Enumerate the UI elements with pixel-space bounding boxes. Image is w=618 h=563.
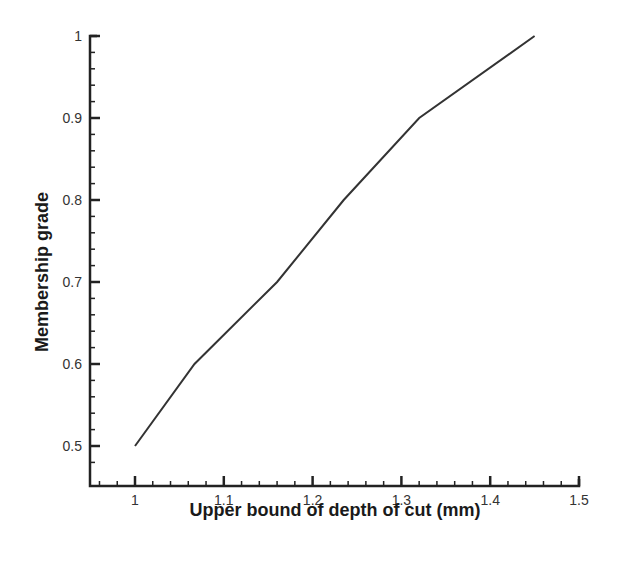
x-axis-title: Upper bound of depth of cut (mm) [190,500,481,520]
y-tick-labels: 0.50.60.70.80.91 [63,28,83,454]
y-tick-label: 0.9 [63,110,83,126]
y-ticks [90,36,100,462]
y-tick-label: 0.6 [63,356,83,372]
chart: 0.50.60.70.80.91 11.11.21.31.41.5 Upper … [0,0,618,563]
y-tick-label: 1 [74,28,82,44]
x-tick-label: 1.4 [480,492,500,508]
y-tick-label: 0.7 [63,274,83,290]
x-tick-label: 1 [131,492,139,508]
y-tick-label: 0.5 [63,438,83,454]
axis-lines [90,36,579,486]
x-ticks [99,476,579,486]
axes [90,36,579,486]
membership-line [135,36,535,446]
x-tick-label: 1.5 [569,492,589,508]
y-tick-label: 0.8 [63,192,83,208]
y-axis-title: Membership grade [32,192,52,352]
